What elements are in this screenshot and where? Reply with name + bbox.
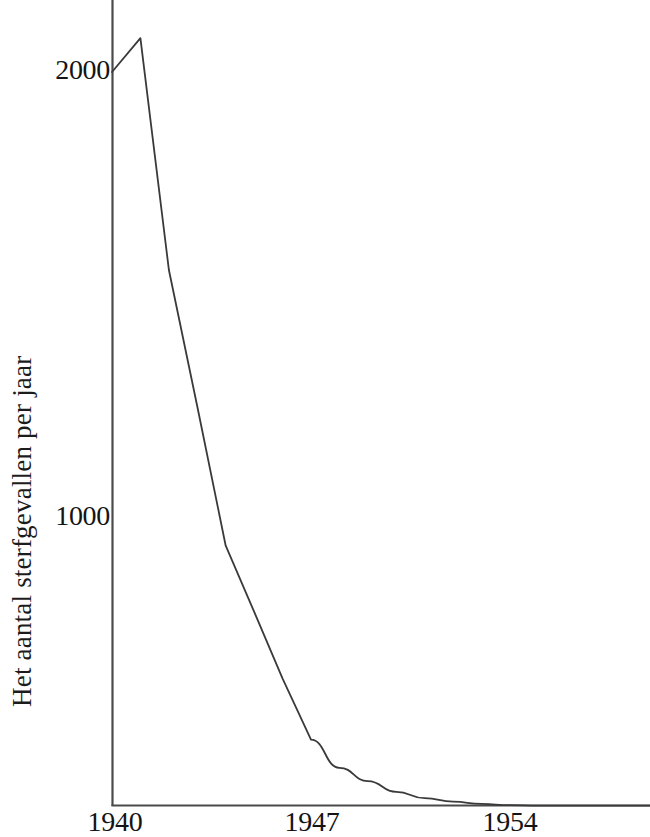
y-axis-label: Het aantal sterfgevallen per jaar: [0, 0, 44, 837]
chart-figure: Het aantal sterfgevallen per jaar 2000 1…: [0, 0, 650, 837]
x-tick-label-1940: 1940: [60, 806, 170, 837]
y-tick-label-2000: 2000: [28, 54, 110, 86]
y-tick-label-1000: 1000: [28, 500, 110, 532]
x-tick-label-1947: 1947: [257, 806, 367, 837]
x-tick-label-1954: 1954: [455, 806, 565, 837]
data-series-line: [112, 38, 650, 806]
chart-plot-area: [0, 0, 650, 837]
